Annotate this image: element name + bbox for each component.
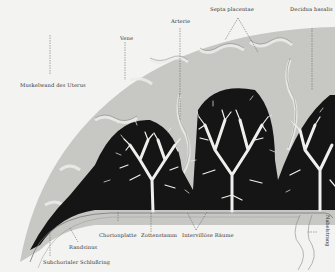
label-decidua-basalis: Decidua basalis <box>290 6 333 12</box>
label-muskelwand-des-uterus: Muskelwand des Uterus <box>20 82 86 88</box>
label-nabelstrang: Nabelstrang <box>325 215 331 246</box>
label-intervillose-raume: Intervillöse Räume <box>182 232 234 238</box>
placenta-diagram: Septa placentae Decidua basalis Arterie … <box>0 0 335 272</box>
label-arterie: Arterie <box>171 18 190 24</box>
label-randsinus: Randsinus <box>69 244 97 250</box>
label-chorionplatte: Chorionplatte <box>99 232 137 238</box>
label-zottenstamm: Zottenstamm <box>141 232 177 238</box>
label-vene: Vene <box>120 35 133 41</box>
label-subchorialer-schlussring: Subchorialer Schlußring <box>43 259 110 265</box>
label-septa-placentae: Septa placentae <box>210 6 254 12</box>
